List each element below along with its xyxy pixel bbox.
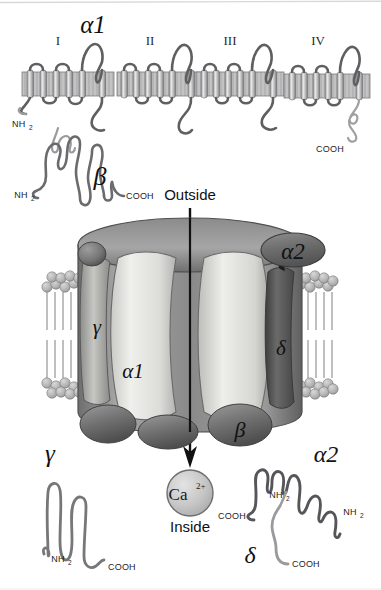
gamma-nh2-subscript: 2 — [68, 559, 72, 566]
alpha2-nh2-text: NH — [269, 490, 282, 500]
gamma-topology-panel: γ NH 2 COOH — [43, 440, 135, 572]
alpha1-cooh-label: COOH — [316, 144, 344, 154]
gamma-topology-label: γ — [45, 440, 56, 467]
alpha1-cytoplasmic-loop — [52, 128, 75, 153]
alpha1-c-terminus-chain — [348, 100, 359, 142]
alpha1-nh2-text: NH — [12, 119, 25, 129]
alpha2-nh2-label-outer: NH 2 — [343, 507, 364, 519]
complex-beta-label: β — [234, 417, 246, 442]
bottom-lobe-left — [80, 405, 136, 443]
alpha2-cooh-label: COOH — [218, 511, 246, 521]
top-knob-left — [78, 242, 106, 266]
complex-alpha1-label: α1 — [122, 359, 144, 383]
delta-cooh-label: COOH — [292, 559, 320, 569]
delta-topology-label: δ — [244, 542, 256, 568]
figure-canvas: I II III IV α1 NH 2 COOH β — [0, 0, 381, 590]
outside-label: Outside — [164, 186, 216, 203]
beta-nh2-label: NH 2 — [14, 190, 35, 202]
delta-nh2-subscript: 2 — [360, 512, 364, 519]
domain-label-II: II — [146, 33, 155, 48]
beta-cooh-label: COOH — [126, 191, 154, 201]
alpha2-chain — [248, 470, 340, 538]
channel-complex-3d: γ α1 δ α2 β — [42, 218, 338, 449]
inside-label: Inside — [170, 518, 210, 535]
alpha1-topology-panel: I II III IV α1 NH 2 COOH — [12, 11, 370, 154]
gamma-nh2-text: NH — [51, 554, 64, 564]
calcium-symbol: Ca — [169, 485, 188, 504]
calcium-channel-figure: I II III IV α1 NH 2 COOH β — [0, 0, 381, 590]
delta-chain — [272, 506, 288, 564]
alpha2-nh2-subscript: 2 — [286, 495, 290, 502]
alpha2-topology-label: α2 — [314, 441, 339, 467]
calcium-charge: 2+ — [196, 481, 206, 491]
delta-nh2-text: NH — [343, 507, 356, 517]
domain-label-IV: IV — [311, 33, 325, 48]
beta-nh2-subscript: 2 — [31, 195, 35, 202]
beta-topology-label: β — [93, 162, 107, 191]
alpha1-lobe-left — [111, 252, 176, 420]
domain-label-III: III — [224, 33, 237, 48]
calcium-ion: Ca 2+ — [167, 470, 213, 516]
alpha1-lobe-right — [198, 252, 269, 420]
complex-delta-label: δ — [276, 336, 287, 360]
complex-alpha2-label: α2 — [281, 239, 305, 264]
beta-cooh-tail — [112, 182, 124, 196]
alpha1-topology-title: α1 — [80, 11, 106, 38]
beta-topology-panel: β NH 2 COOH — [14, 137, 154, 206]
domain-label-I: I — [56, 33, 60, 48]
complex-gamma-label: γ — [93, 315, 102, 339]
beta-nh2-text: NH — [14, 190, 27, 200]
alpha1-nh2-subscript: 2 — [29, 124, 33, 131]
gamma-cooh-label: COOH — [108, 562, 136, 572]
alpha2-delta-topology-panel: α2 δ COOH NH 2 NH 2 COOH — [218, 441, 364, 569]
alpha1-nh2-label: NH 2 — [12, 119, 33, 131]
